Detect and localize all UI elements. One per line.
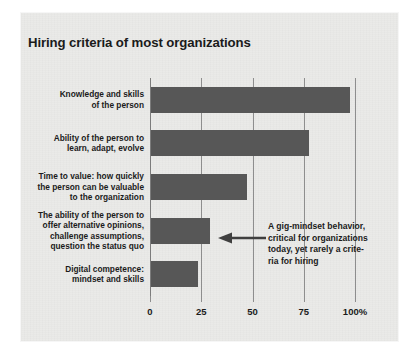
category-label-line: question the status quo [12,241,144,251]
x-tick-mark [201,296,202,302]
category-label-line: the person can be valuable [12,182,144,192]
category-label: Time to value: how quicklythe person can… [12,171,144,202]
x-tick-label: 50 [247,306,258,317]
category-label-line: Time to value: how quickly [12,171,144,181]
category-label-line: The ability of the person to [12,210,144,220]
category-label: Ability of the person tolearn, adapt, ev… [12,133,144,154]
x-tick-label: 75 [298,306,309,317]
x-tick-label: 0 [147,306,152,317]
annotation-line: critical for organizations [268,233,386,245]
category-label: Digital competence:mindset and skills [12,264,144,285]
bar[interactable] [151,261,198,287]
x-tick-label: 25 [196,306,207,317]
category-label-line: offer alternative opinions, [12,220,144,230]
x-tick-label: 100% [343,306,367,317]
x-tick-mark [304,296,305,302]
bar[interactable] [151,218,210,244]
category-label-line: Knowledge and skills [12,89,144,99]
category-label-line: learn, adapt, evolve [12,143,144,153]
category-label-line: challenge assumptions, [12,231,144,241]
category-label: Knowledge and skillsof the person [12,89,144,110]
annotation-line: ria for hiring [268,256,386,268]
category-label-line: mindset and skills [12,274,144,284]
annotation-line: today, yet rarely a crite- [268,244,386,256]
bar[interactable] [151,130,309,156]
gig-mindset-annotation: A gig-mindset behavior,critical for orga… [268,221,386,267]
annotation-line: A gig-mindset behavior, [268,221,386,233]
category-label-line: Ability of the person to [12,133,144,143]
figure-container: Hiring criteria of most organizations Kn… [0,0,419,363]
x-tick-mark [253,296,254,302]
category-label-line: Digital competence: [12,264,144,274]
category-axis-labels: Knowledge and skillsof the personAbility… [8,78,144,296]
category-label: The ability of the person tooffer altern… [12,210,144,252]
callout-arrow-icon [218,232,266,244]
x-tick-mark [150,296,151,302]
chart-title: Hiring criteria of most organizations [28,35,251,50]
bar[interactable] [151,174,247,200]
category-label-line: of the person [12,100,144,110]
bar[interactable] [151,87,350,113]
category-label-line: to the organization [12,192,144,202]
x-tick-mark [355,296,356,302]
